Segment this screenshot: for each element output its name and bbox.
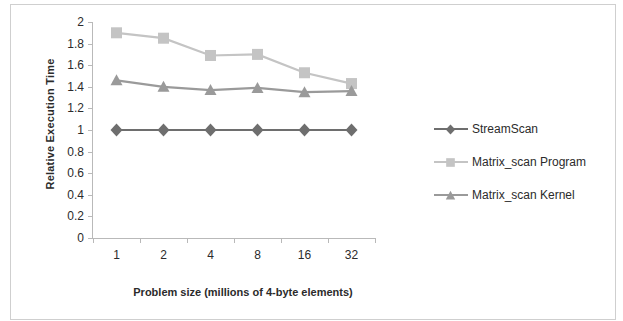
data-point-marker [205,50,216,61]
data-point-marker [252,124,264,137]
data-point-marker [205,124,217,137]
legend-item-matrix-scan-program[interactable]: Matrix_scan Program [434,145,614,178]
chart-figure: Relative Execution Time 00.20.40.60.811.… [0,0,623,321]
legend-item-matrix-scan-kernel[interactable]: Matrix_scan Kernel [434,178,614,211]
chart-legend: StreamScanMatrix_scan ProgramMatrix_scan… [434,112,614,211]
legend-marker-square-icon [434,155,468,169]
data-point-marker [111,27,122,38]
x-axis-title: Problem size (millions of 4-byte element… [93,286,393,298]
data-point-marker [111,124,123,137]
legend-item-label: Matrix_scan Kernel [468,188,575,202]
legend-marker-glyph [445,124,456,135]
legend-marker-glyph [445,157,456,168]
data-point-marker [346,124,358,137]
data-point-marker [158,124,170,137]
series-line [117,33,352,84]
data-point-marker [299,124,311,137]
legend-item-label: StreamScan [468,122,538,136]
series-matrix-scan-kernel [111,74,358,97]
legend-marker-glyph [445,190,456,201]
data-point-marker [252,49,263,60]
legend-item-label: Matrix_scan Program [468,155,586,169]
legend-item-streamscan[interactable]: StreamScan [434,112,614,145]
series-matrix-scan-program [111,27,357,89]
data-point-marker [299,67,310,78]
data-point-marker [158,33,169,44]
legend-marker-triangle-icon [434,188,468,202]
series-streamscan [111,124,358,137]
legend-marker-diamond-icon [434,122,468,136]
series-line [117,80,352,92]
